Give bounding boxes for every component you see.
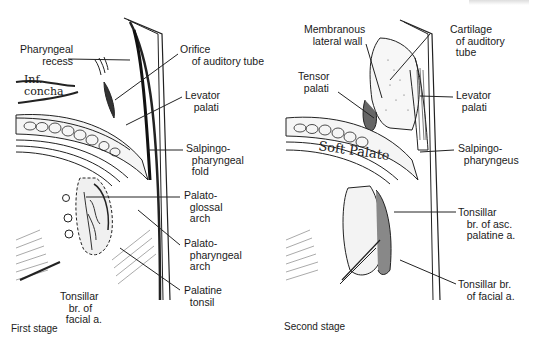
label-salpingopharyngeal-fold: Salpingo- pharyngeal fold: [186, 143, 244, 178]
label-tonsillar-br-facial-2: Tonsillar br. of facial a.: [458, 279, 515, 302]
label-tensor-palati: Tensor palati: [298, 71, 330, 94]
caption-second-stage: Second stage: [284, 321, 345, 332]
label-pharyngeal-recess: Pharyngeal recess: [20, 44, 73, 67]
panel-first-stage: Pharyngeal recess Orifice of auditory tu…: [0, 0, 270, 342]
label-salpingopharyngeus: Salpingo- pharyngeus: [458, 143, 519, 166]
label-levator-palati-2: Levator palati: [456, 90, 491, 113]
label-membranous-lateral-wall: Membranous lateral wall: [304, 24, 365, 47]
panel-second-stage: Soft Palate Membranous lateral wall Cart…: [270, 0, 533, 342]
label-palatoglossal-arch: Palato- glossal arch: [184, 190, 223, 225]
label-palatopharyngeal-arch: Palato- pharyngeal arch: [184, 238, 242, 273]
label-tonsillar-br-asc-palatine: Tonsillar br. of asc. palatine a.: [458, 207, 515, 242]
label-cartilage-auditory-tube: Cartilage of auditory tube: [450, 24, 505, 59]
label-levator-palati: Levator palati: [185, 90, 220, 113]
caption-first-stage: First stage: [11, 323, 58, 334]
label-inf-concha: Inf. concha: [24, 74, 64, 97]
label-tonsillar-br-facial: Tonsillar br. of facial a.: [60, 291, 102, 326]
label-palatine-tonsil: Palatine tonsil: [184, 285, 222, 308]
label-orifice-auditory-tube: Orifice of auditory tube: [180, 44, 264, 67]
